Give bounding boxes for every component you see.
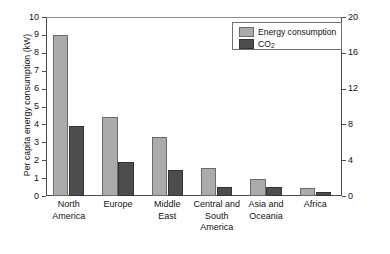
y-axis-tick-right — [342, 124, 346, 125]
bar-energy-0 — [53, 35, 69, 196]
legend-item-energy-consumption: Energy consumption — [239, 26, 341, 37]
legend-label-energy: Energy consumption — [258, 27, 336, 37]
y-axis-tick-left — [42, 89, 46, 90]
y-axis-tick-label-right: 12 — [348, 84, 388, 93]
y-axis-tick-left — [42, 107, 46, 108]
bar-energy-2 — [152, 137, 168, 196]
y-axis-tick-label-left: 2 — [0, 156, 39, 165]
y-axis-tick-label-right: 0 — [348, 192, 388, 201]
y-axis-tick-left — [42, 124, 46, 125]
bar-chart: Per capita energy consumption (kW) Per c… — [0, 0, 390, 254]
y-axis-tick-left — [42, 71, 46, 72]
bar-co2-3 — [217, 187, 233, 196]
y-axis-tick-left — [42, 196, 46, 197]
y-axis-tick-label-right: 16 — [348, 48, 388, 57]
y-axis-tick-left — [42, 35, 46, 36]
y-axis-tick-label-left: 7 — [0, 66, 39, 75]
y-axis-tick-left — [42, 53, 46, 54]
y-axis-tick-right — [342, 17, 346, 18]
y-axis-tick-right — [342, 53, 346, 54]
legend-swatch-co2-icon — [239, 39, 254, 49]
y-axis-tick-label-right: 20 — [348, 13, 388, 22]
y-axis-tick-label-left: 8 — [0, 48, 39, 57]
y-axis-tick-label-left: 6 — [0, 84, 39, 93]
legend-item-co2: CO2 — [239, 38, 341, 49]
chart-legend: Energy consumption CO2 — [232, 22, 342, 50]
y-axis-tick-left — [42, 178, 46, 179]
y-axis-tick-left — [42, 142, 46, 143]
y-axis-tick-left — [42, 17, 46, 18]
bar-energy-1 — [102, 117, 118, 196]
y-axis-tick-right — [342, 89, 346, 90]
y-axis-tick-right — [342, 196, 346, 197]
legend-label-co2: CO2 — [258, 39, 274, 49]
y-axis-tick-left — [42, 160, 46, 161]
x-axis-category-label-5: Africa — [287, 199, 344, 211]
y-axis-tick-label-left: 3 — [0, 138, 39, 147]
bar-co2-2 — [168, 170, 184, 196]
bar-energy-4 — [250, 179, 266, 196]
bar-co2-4 — [266, 187, 282, 196]
y-axis-tick-label-left: 9 — [0, 30, 39, 39]
bar-co2-0 — [69, 126, 85, 196]
y-axis-tick-label-right: 4 — [348, 156, 388, 165]
y-axis-tick-label-left: 10 — [0, 13, 39, 22]
y-axis-tick-label-left: 0 — [0, 192, 39, 201]
y-axis-tick-right — [342, 160, 346, 161]
y-axis-tick-label-left: 1 — [0, 174, 39, 183]
y-axis-tick-label-left: 4 — [0, 120, 39, 129]
bar-energy-3 — [201, 168, 217, 196]
legend-swatch-energy-icon — [239, 27, 254, 37]
bar-co2-1 — [118, 162, 134, 196]
bar-energy-5 — [300, 188, 316, 196]
y-axis-tick-label-right: 8 — [348, 120, 388, 129]
bar-co2-5 — [316, 192, 332, 196]
y-axis-tick-label-left: 5 — [0, 102, 39, 111]
